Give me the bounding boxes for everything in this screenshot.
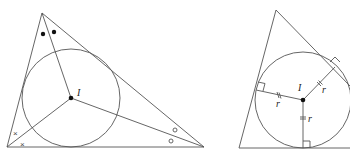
angle-cross-mark: × [20, 140, 25, 149]
radius-label-left: r [276, 98, 280, 109]
incenter-point [69, 96, 74, 101]
angle-dot-mark [52, 30, 56, 34]
right-angle-mark-left [258, 82, 265, 91]
bisector-right [71, 98, 204, 147]
incenter-label: I [76, 87, 81, 98]
bisector-left [7, 98, 71, 147]
angle-circle-mark [173, 128, 177, 132]
incenter-label: I [297, 82, 302, 93]
triangle-right-side [276, 10, 350, 86]
geometry-diagram: I × × I r [0, 0, 350, 153]
triangle-left-side [239, 10, 276, 148]
angle-circle-mark [169, 139, 173, 143]
right-figure: I r r r [239, 10, 350, 148]
radius-label-bottom: r [308, 113, 312, 124]
right-angle-mark-bottom [303, 141, 310, 148]
angle-dot-mark [41, 32, 45, 36]
triangle [7, 13, 204, 147]
angle-cross-mark: × [13, 129, 18, 138]
incenter-point [301, 98, 306, 103]
left-figure: I × × [7, 13, 204, 149]
radius-label-right: r [322, 84, 326, 95]
